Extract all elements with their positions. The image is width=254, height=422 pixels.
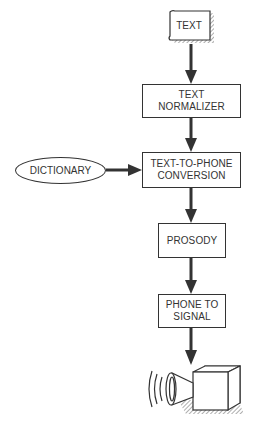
text-to-phone-line1: TEXT-TO-PHONE [150,158,232,170]
text-normalizer-line2: NORMALIZER [158,101,225,113]
phone-to-signal-line2: SIGNAL [173,311,210,323]
diagram-canvas [0,0,254,422]
loudspeaker-icon [149,366,244,414]
text-normalizer-node: TEXT NORMALIZER [142,84,241,118]
phone-to-signal-line1: PHONE TO [166,299,219,311]
text-to-phone-node: TEXT-TO-PHONE CONVERSION [142,152,241,188]
dictionary-node: DICTIONARY [15,157,106,184]
prosody-label: PROSODY [167,235,218,247]
dictionary-label: DICTIONARY [30,165,92,176]
text-input-label: TEXT [168,10,210,40]
text-normalizer-line1: TEXT [179,89,205,101]
phone-to-signal-node: PHONE TO SIGNAL [158,294,226,328]
prosody-node: PROSODY [158,223,226,258]
text-to-phone-line2: CONVERSION [157,170,225,182]
